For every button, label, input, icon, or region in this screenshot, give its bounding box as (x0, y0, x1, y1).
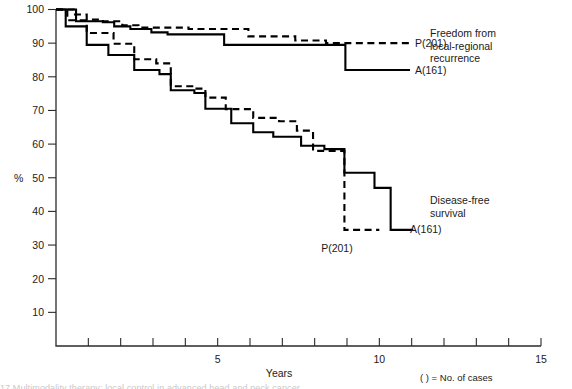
x-axis-title: Years (266, 367, 292, 379)
labels-group: P(201)A(161)P(201)A(161)Freedom fromloca… (321, 27, 496, 383)
curve-dashed (56, 10, 379, 230)
y-tick-label: 100 (26, 3, 44, 15)
y-tick-label: 60 (32, 138, 44, 150)
y-axis-title: % (14, 172, 23, 184)
y-tick-label: 80 (32, 71, 44, 83)
x-tick-label: 15 (535, 353, 547, 365)
y-tick-label: 10 (32, 306, 44, 318)
cases-footnote: ( ) = No. of cases (420, 372, 493, 383)
y-tick-label: 30 (32, 239, 44, 251)
y-tick-label: 90 (32, 37, 44, 49)
survival-chart: 10203040506070809010051015%Years P(201)A… (0, 0, 572, 389)
y-tick-label: 40 (32, 205, 44, 217)
group-annotation-freedom: recurrence (430, 52, 480, 64)
curve-solid (56, 10, 410, 71)
group-annotation-freedom: Freedom from (430, 27, 496, 39)
curve-dashed (56, 10, 410, 44)
x-tick-label: 5 (215, 353, 221, 365)
group-annotation-dfs: Disease-free (430, 194, 490, 206)
x-tick-label: 10 (373, 353, 385, 365)
chart-root: 10203040506070809010051015%Years P(201)A… (0, 0, 572, 389)
group-annotation-freedom: local-regional (430, 40, 492, 52)
series-label: A(161) (410, 223, 442, 235)
series-label: A(161) (415, 64, 447, 76)
group-annotation-dfs: survival (430, 207, 466, 219)
y-tick-label: 70 (32, 104, 44, 116)
clipped-caption: 17 Multimodality therapy: local control … (0, 383, 572, 389)
y-tick-label: 50 (32, 172, 44, 184)
y-tick-label: 20 (32, 273, 44, 285)
series-label: P(201) (321, 242, 353, 254)
curves-group (56, 10, 413, 230)
